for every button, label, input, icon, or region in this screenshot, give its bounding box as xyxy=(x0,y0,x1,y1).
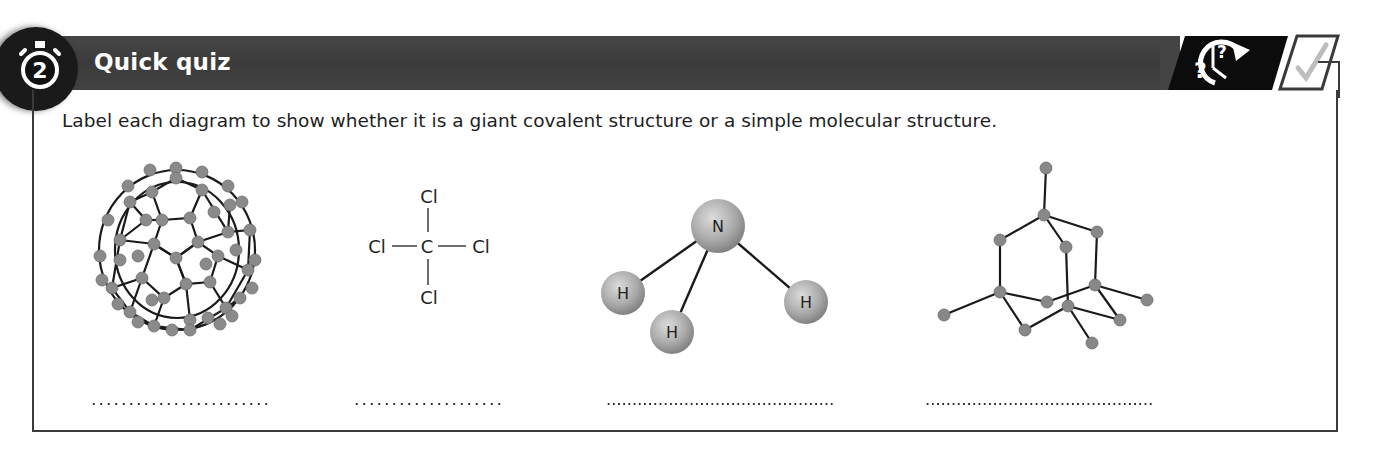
atom-n: N xyxy=(712,217,724,236)
atom-cl-right: Cl xyxy=(472,236,490,257)
atom-cl-bottom: Cl xyxy=(420,287,438,308)
svg-text:?: ? xyxy=(1217,42,1227,62)
section-number: 2 xyxy=(32,58,47,83)
answer-field-4[interactable] xyxy=(925,398,1154,410)
header-icons: ? ? xyxy=(1160,28,1360,98)
quiz-instruction: Label each diagram to show whether it is… xyxy=(62,110,997,131)
fullerene-diagram xyxy=(90,160,270,340)
answer-field-1[interactable] xyxy=(90,398,272,410)
answer-field-3[interactable] xyxy=(606,398,835,410)
atom-c: C xyxy=(421,236,434,257)
atom-h3: H xyxy=(800,293,812,312)
svg-text:?: ? xyxy=(1194,58,1207,83)
ccl4-diagram: Cl C Cl Cl Cl xyxy=(360,175,500,315)
atom-h1: H xyxy=(617,284,629,303)
atom-h2: H xyxy=(666,323,678,342)
atom-cl-left: Cl xyxy=(368,236,386,257)
answer-field-2[interactable] xyxy=(353,398,505,410)
diamond-diagram xyxy=(930,155,1160,355)
section-title: Quick quiz xyxy=(94,42,231,82)
nh3-diagram: N H H H xyxy=(590,190,840,370)
atom-cl-top: Cl xyxy=(420,186,438,207)
